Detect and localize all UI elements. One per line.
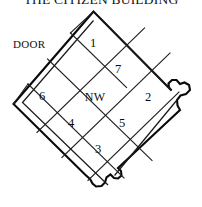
room-label-3: 3 <box>95 142 101 156</box>
inner-wall-path-right <box>101 19 172 91</box>
room-label-1: 1 <box>90 36 96 50</box>
partition-b3 <box>88 92 179 181</box>
partition-room1-edge <box>71 12 94 34</box>
inner-wall-path-lower-right <box>115 100 178 176</box>
room-label-5: 5 <box>119 116 125 130</box>
room-label-nw: NW <box>85 90 106 104</box>
floor-plan-diagram: THE CITIZEN BUILDING DOOR 1 7 2 5 3 4 6 … <box>0 0 202 207</box>
room-label-7: 7 <box>115 62 121 76</box>
partition-a1 <box>71 33 127 88</box>
room-label-6: 6 <box>39 89 45 103</box>
plan-drawing: 1 7 2 5 3 4 6 NW <box>0 0 202 207</box>
partition-room6-edge <box>14 84 29 104</box>
room-label-4: 4 <box>68 116 75 130</box>
room-label-2: 2 <box>145 90 151 104</box>
